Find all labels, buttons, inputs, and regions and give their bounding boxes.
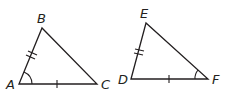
- vertex-label-c: C: [101, 77, 111, 92]
- vertex-label-b: B: [37, 11, 46, 26]
- diagram-canvas: A B C D E F: [0, 0, 232, 96]
- triangle-def: D E F: [118, 6, 220, 87]
- vertex-label-e: E: [140, 6, 149, 21]
- triangle-abc: A B C: [5, 11, 111, 92]
- vertex-label-a: A: [5, 77, 15, 92]
- angle-arc-f: [195, 70, 198, 79]
- angle-arc-a: [24, 72, 32, 84]
- double-tick-mark-de: [134, 49, 144, 55]
- vertex-label-f: F: [212, 72, 220, 87]
- vertex-label-d: D: [118, 72, 128, 87]
- triangle-abc-outline: [19, 28, 97, 84]
